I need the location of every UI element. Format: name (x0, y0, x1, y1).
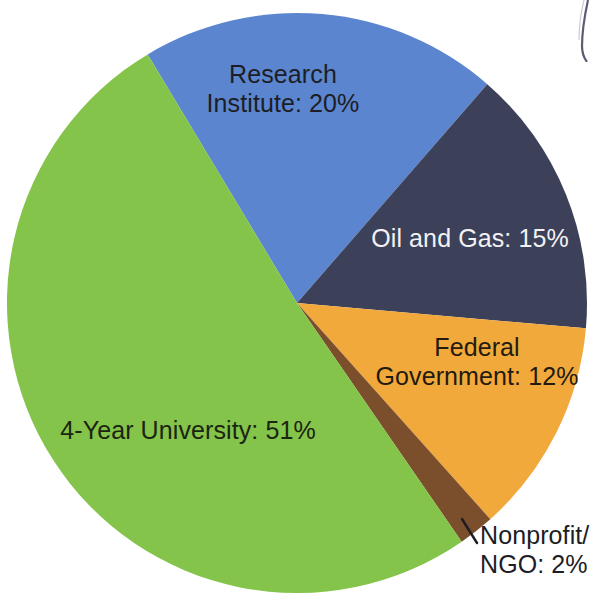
pie-slice-group (7, 13, 587, 593)
